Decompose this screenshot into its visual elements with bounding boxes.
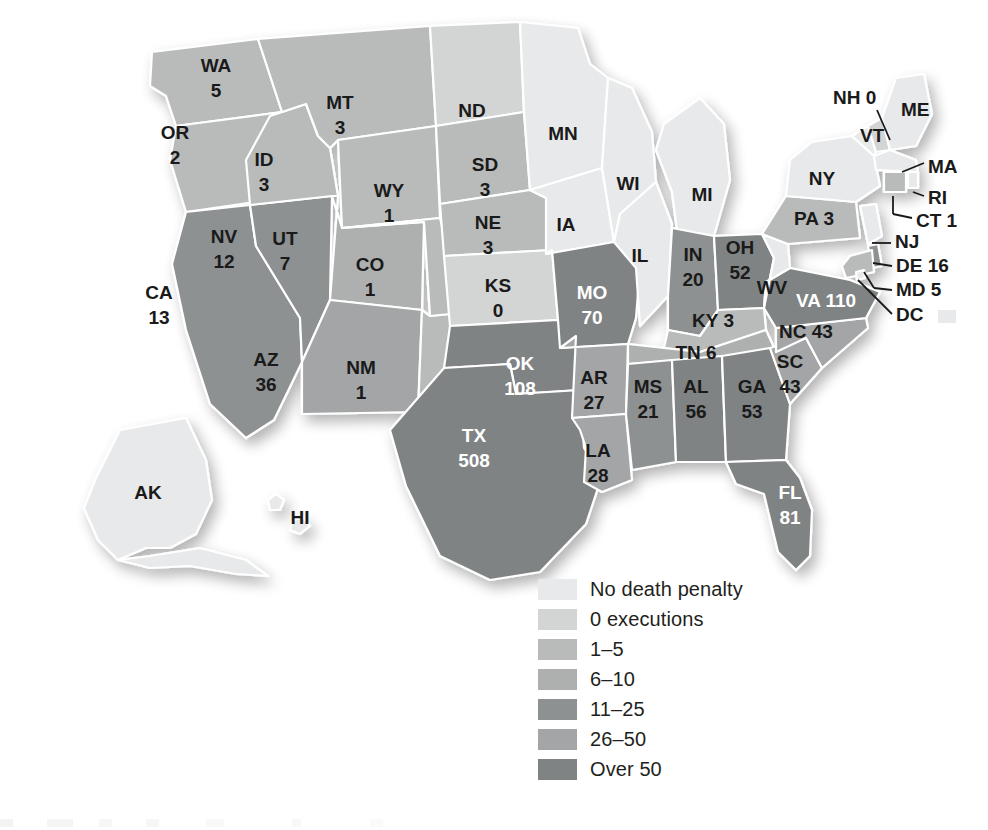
state-shape-nd[interactable] (430, 22, 524, 126)
state-shape-sd[interactable] (436, 112, 530, 204)
state-shape-dc[interactable] (856, 270, 865, 280)
callout-label-dc: DC (896, 304, 924, 325)
legend-item-no-death-penalty[interactable]: No death penalty (538, 574, 818, 604)
leader-ri (913, 192, 924, 196)
callout-label-ma: MA (928, 156, 958, 177)
state-shape-ms[interactable] (626, 360, 676, 470)
legend-label-no-death-penalty: No death penalty (590, 578, 743, 601)
state-shape-ks[interactable] (444, 250, 558, 326)
legend: No death penalty 0 executions 1–5 6–10 1… (538, 574, 818, 784)
state-label-ca: CA (145, 282, 173, 303)
state-value-ca: 13 (148, 307, 169, 328)
dc-color-swatch (938, 310, 956, 323)
state-shape-ak[interactable] (84, 418, 212, 560)
legend-swatch-over-50 (538, 759, 577, 780)
legend-item-6-10[interactable]: 6–10 (538, 664, 818, 694)
state-shape-ak-aleutians[interactable] (118, 548, 268, 576)
callout-label-nj: NJ (895, 231, 919, 252)
callout-label-ct: CT 1 (916, 210, 958, 231)
legend-label-26-50: 26–50 (590, 728, 646, 751)
state-shape-hi-island[interactable] (290, 516, 310, 534)
page-edge-artifact (0, 819, 430, 827)
legend-item-1-5[interactable]: 1–5 (538, 634, 818, 664)
state-shape-wy[interactable] (338, 126, 440, 228)
state-shape-tx[interactable] (390, 364, 602, 580)
legend-swatch-no-death-penalty (538, 579, 577, 600)
callout-label-ri: RI (928, 187, 947, 208)
legend-label-over-50: Over 50 (590, 758, 662, 781)
callout-label-nh: NH 0 (833, 87, 876, 108)
state-shape-nj[interactable] (860, 204, 882, 244)
state-shape-ct[interactable] (884, 172, 906, 192)
state-shape-pa[interactable] (762, 196, 860, 244)
legend-swatch-11-25 (538, 699, 577, 720)
legend-swatch-26-50 (538, 729, 577, 750)
legend-item-26-50[interactable]: 26–50 (538, 724, 818, 754)
legend-label-zero-executions: 0 executions (590, 608, 704, 631)
state-shape-mn[interactable] (520, 22, 608, 190)
legend-swatch-zero-executions (538, 609, 577, 630)
state-shape-mo[interactable] (546, 242, 640, 348)
leader-ct-h (893, 214, 912, 218)
legend-label-1-5: 1–5 (590, 638, 624, 661)
us-map-svg: WA 5 OR 2 CA 13 NV 12 ID 3 MT 3 WY 1 UT … (0, 0, 988, 830)
state-shape-al[interactable] (672, 356, 726, 462)
state-shape-fl[interactable] (726, 460, 812, 570)
legend-item-11-25[interactable]: 11–25 (538, 694, 818, 724)
state-shape-hi[interactable] (268, 494, 284, 510)
legend-item-zero-executions[interactable]: 0 executions (538, 604, 818, 634)
state-shape-ri[interactable] (908, 172, 918, 188)
legend-item-over-50[interactable]: Over 50 (538, 754, 818, 784)
legend-swatch-6-10 (538, 669, 577, 690)
legend-label-6-10: 6–10 (590, 668, 635, 691)
legend-label-11-25: 11–25 (590, 698, 645, 721)
legend-swatch-1-5 (538, 639, 577, 660)
us-executions-choropleth-map: WA 5 OR 2 CA 13 NV 12 ID 3 MT 3 WY 1 UT … (0, 0, 988, 830)
callout-label-de: DE 16 (896, 255, 949, 276)
callout-label-md: MD 5 (896, 279, 942, 300)
